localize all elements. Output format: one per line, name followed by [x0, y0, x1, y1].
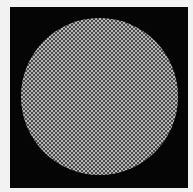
image-description: Black square background with a large cir… — [0, 0, 1, 1]
black-square-frame — [10, 7, 188, 188]
image-canvas: Black square background with a large cir… — [0, 0, 193, 192]
checkerboard-disc — [21, 18, 178, 175]
